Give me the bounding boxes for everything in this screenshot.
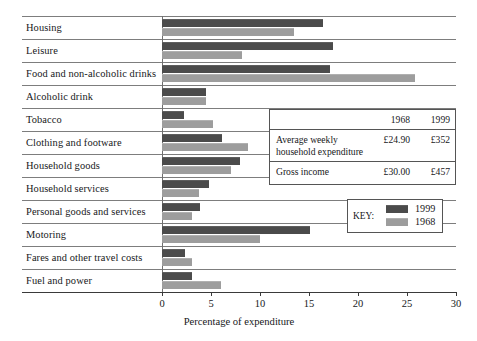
bar-fares-and-other-travel-costs-1968 — [162, 258, 192, 266]
x-tick-label-10: 10 — [255, 298, 266, 309]
row-separator — [22, 269, 456, 270]
category-label-leisure: Leisure — [26, 45, 160, 57]
bar-household-services-1999 — [162, 180, 209, 188]
category-label-housing: Housing — [26, 22, 160, 34]
bar-personal-goods-and-services-1999 — [162, 203, 200, 211]
x-tick-label-0: 0 — [159, 298, 164, 309]
table-header-1968: 1968 — [366, 114, 410, 125]
x-tick-30 — [456, 292, 457, 296]
x-tick-label-25: 25 — [402, 298, 413, 309]
row-separator — [22, 85, 456, 86]
x-tick-0 — [162, 292, 163, 296]
category-label-personal-goods: Personal goods and services — [26, 206, 160, 218]
inset-summary-table: 1968 1999 Average weekly household expen… — [269, 109, 456, 185]
category-label-tobacco: Tobacco — [26, 114, 160, 126]
bar-personal-goods-and-services-1968 — [162, 212, 192, 220]
bar-housing-1968 — [162, 28, 294, 36]
x-tick-label-5: 5 — [208, 298, 213, 309]
x-tick-25 — [407, 292, 408, 296]
x-axis-line — [22, 292, 456, 293]
bar-fuel-and-power-1968 — [162, 281, 221, 289]
x-tick-10 — [260, 292, 261, 296]
bar-housing-1999 — [162, 19, 323, 27]
bar-household-goods-1968 — [162, 166, 231, 174]
table-cell-income-1999: £457 — [412, 166, 450, 177]
table-header-row: 1968 1999 — [270, 110, 455, 130]
x-tick-20 — [358, 292, 359, 296]
category-label-fuel-power: Fuel and power — [26, 275, 160, 287]
bar-food-and-non-alcoholic-drinks-1999 — [162, 65, 330, 73]
bar-leisure-1999 — [162, 42, 333, 50]
bar-alcoholic-drink-1968 — [162, 97, 206, 105]
category-label-motoring: Motoring — [26, 229, 160, 241]
row-separator — [22, 62, 456, 63]
category-label-clothing: Clothing and footware — [26, 137, 160, 149]
x-tick-15 — [309, 292, 310, 296]
x-tick-label-30: 30 — [451, 298, 462, 309]
table-cell-income-1968: £30.00 — [366, 166, 410, 177]
legend-label-1999: 1999 — [415, 203, 435, 214]
x-tick-label-20: 20 — [353, 298, 364, 309]
bar-leisure-1968 — [162, 51, 242, 59]
legend-swatch-icon-1999 — [386, 205, 408, 213]
row-separator — [22, 39, 456, 40]
x-tick-label-15: 15 — [304, 298, 315, 309]
category-label-food: Food and non-alcoholic drinks — [26, 68, 160, 80]
category-label-alcoholic-drink: Alcoholic drink — [26, 91, 160, 103]
table-header-1999: 1999 — [412, 114, 450, 125]
bar-alcoholic-drink-1999 — [162, 88, 206, 96]
category-label-household-services: Household services — [26, 183, 160, 195]
bar-tobacco-1968 — [162, 120, 213, 128]
x-tick-5 — [211, 292, 212, 296]
table-row-label-gross-income: Gross income — [276, 166, 329, 178]
bar-household-services-1968 — [162, 189, 199, 197]
bar-chart: Housing Leisure Food and non-alcoholic d… — [0, 0, 477, 341]
bar-clothing-and-footware-1968 — [162, 143, 248, 151]
table-row-label-expenditure: Average weekly household expenditure — [276, 134, 363, 158]
x-axis-title: Percentage of expenditure — [22, 316, 456, 327]
bar-motoring-1968 — [162, 235, 260, 243]
legend-swatch-icon-1968 — [386, 218, 408, 226]
bar-food-and-non-alcoholic-drinks-1968 — [162, 74, 415, 82]
legend-label-1968: 1968 — [415, 216, 435, 227]
category-label-fares: Fares and other travel costs — [26, 252, 160, 264]
category-label-household-goods: Household goods — [26, 160, 160, 172]
bar-clothing-and-footware-1999 — [162, 134, 222, 142]
bar-fuel-and-power-1999 — [162, 272, 192, 280]
bar-household-goods-1999 — [162, 157, 240, 165]
table-row: Gross income £30.00 £457 — [270, 162, 455, 184]
bar-motoring-1999 — [162, 226, 310, 234]
table-cell-expenditure-1999: £352 — [412, 134, 450, 145]
bar-fares-and-other-travel-costs-1999 — [162, 249, 185, 257]
bar-tobacco-1999 — [162, 111, 184, 119]
legend-title: KEY: — [353, 211, 374, 221]
row-separator — [22, 246, 456, 247]
row-separator — [22, 16, 456, 17]
table-cell-expenditure-1968: £24.90 — [366, 134, 410, 145]
table-row: Average weekly household expenditure £24… — [270, 130, 455, 162]
legend: KEY: 1999 1968 — [347, 199, 443, 233]
